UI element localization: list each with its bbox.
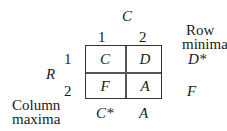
cell-r2-c2: A — [126, 73, 164, 99]
column-header-2: 2 — [139, 30, 147, 45]
cell-r1-c2: D — [126, 46, 164, 72]
column-maximum-1: C* — [96, 106, 114, 121]
cell-r2-c1: F — [86, 73, 124, 99]
row-header-2: 2 — [64, 84, 72, 99]
row-header-1: 1 — [64, 52, 72, 67]
column-player-label: C — [122, 9, 132, 24]
cell-r1-c1: C — [86, 46, 124, 72]
row-player-label: R — [46, 67, 55, 82]
column-maxima-label-line2: maxima — [12, 112, 60, 127]
column-maximum-2: A — [139, 106, 148, 121]
payoff-grid: C D F A — [85, 45, 162, 99]
row-minima-label-line2: minima — [182, 37, 227, 52]
row-minimum-1: D* — [188, 52, 206, 67]
column-header-1: 1 — [98, 30, 106, 45]
row-minimum-2: F — [187, 84, 196, 99]
